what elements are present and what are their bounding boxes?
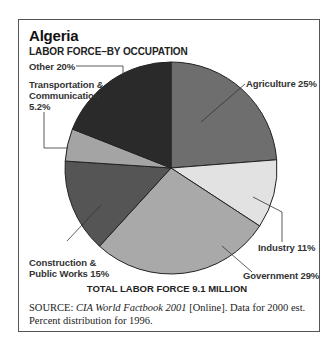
leader-line-transport [44, 112, 68, 148]
leader-line-other [76, 66, 123, 75]
label-transport-line1: Transportation & [29, 79, 103, 90]
label-transport-line3: 5.2% [29, 101, 50, 112]
label-transport-line2: Communication [29, 90, 99, 101]
label-construction-line2: Public Works 15% [29, 268, 109, 279]
source-title: CIA World Factbook 2001 [76, 302, 187, 313]
pie-chart [0, 0, 334, 347]
source-prefix: SOURCE: [29, 302, 73, 313]
label-agriculture: Agriculture 25% [246, 78, 317, 89]
label-government: Government 29% [243, 270, 319, 281]
label-industry: Industry 11% [258, 242, 315, 253]
label-construction-line1: Construction & [29, 257, 96, 268]
label-other: Other 20% [29, 61, 75, 72]
total-labor-force: TOTAL LABOR FORCE 9.1 MILLION [0, 283, 334, 294]
source-note: SOURCE: CIA World Factbook 2001 [Online]… [29, 301, 314, 327]
